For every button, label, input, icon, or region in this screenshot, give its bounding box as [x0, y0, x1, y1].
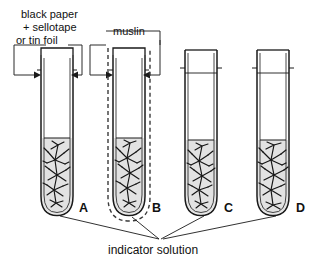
figure-root: A B	[0, 0, 318, 264]
arrow-head-left-b	[106, 72, 113, 79]
tube-top-b	[113, 48, 145, 55]
indicator-solution-label: indicator solution	[108, 243, 198, 257]
leader-a	[60, 216, 159, 239]
leader-d	[163, 216, 276, 239]
arrow-head-right-b	[143, 72, 150, 79]
test-tube-b: B	[108, 48, 161, 221]
tube-letter-a: A	[79, 201, 88, 215]
tube-letter-b: B	[152, 201, 161, 215]
test-tube-a: A	[37, 48, 88, 216]
tube-letter-d: D	[296, 201, 305, 215]
wrapping-a	[41, 48, 73, 55]
black-paper-callout-bracket	[14, 45, 82, 79]
black-paper-callout-line3: or tin foil	[16, 34, 58, 46]
arrow-head-right-a	[71, 72, 78, 79]
leader-c	[161, 216, 204, 239]
indicator-solution-leader-lines	[60, 216, 276, 239]
test-tube-experiment-diagram: A B	[0, 0, 318, 264]
tube-letter-c: C	[224, 201, 233, 215]
muslin-callout-label: muslin	[113, 25, 145, 37]
black-paper-callout-line2: + sellotape	[23, 21, 77, 33]
muslin-callout-bracket	[90, 31, 160, 79]
test-tube-d: D	[252, 50, 305, 216]
black-paper-callout-line1: black paper	[21, 8, 78, 20]
test-tube-c: C	[180, 50, 233, 216]
arrow-head-left-a	[34, 72, 41, 79]
